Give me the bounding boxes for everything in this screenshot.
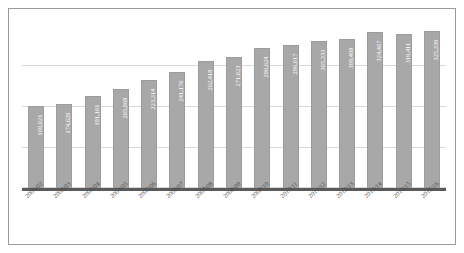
bar-slot: 296,617	[276, 24, 304, 188]
bar-slot: 169,021	[22, 24, 50, 188]
category-slot: 2009/10	[248, 192, 276, 238]
bar-slot: 325,339	[418, 24, 446, 188]
bar-slot: 308,408	[333, 24, 361, 188]
bar-value-label: 324,467	[375, 40, 382, 61]
bar-slot: 174,629	[50, 24, 78, 188]
category-slot: 2014/15	[389, 192, 417, 238]
bar-value-label: 174,629	[64, 112, 71, 133]
category-slot: 2013/14	[361, 192, 389, 238]
bar-value-label: 319,411	[404, 43, 411, 64]
bar[interactable]: 290,624	[254, 48, 270, 188]
bar-value-label: 290,624	[262, 56, 269, 77]
x-axis-labels: 2001/022002/032003/042004/052005/062006/…	[22, 192, 446, 238]
category-slot: 2006/07	[163, 192, 191, 238]
bar-slot: 223,314	[135, 24, 163, 188]
category-slot: 2005/06	[135, 192, 163, 238]
bar-slot: 305,333	[305, 24, 333, 188]
bar-slot: 319,411	[389, 24, 417, 188]
bar[interactable]: 324,467	[367, 32, 383, 189]
bar[interactable]: 271,023	[226, 57, 242, 188]
bar[interactable]: 262,418	[198, 61, 214, 188]
bar-value-label: 262,418	[206, 70, 213, 91]
category-slot: 2012/13	[333, 192, 361, 238]
bar-value-label: 205,968	[121, 97, 128, 118]
bar[interactable]: 223,314	[141, 80, 157, 188]
bar-slot: 241,176	[163, 24, 191, 188]
bar-value-label: 223,314	[149, 89, 156, 110]
category-slot: 2002/03	[50, 192, 78, 238]
bar-value-label: 169,021	[36, 115, 43, 136]
bar-value-label: 325,339	[432, 40, 439, 61]
bar-value-label: 296,617	[291, 54, 298, 75]
bar-value-label: 308,408	[347, 48, 354, 69]
chart-figure: 169,021174,629191,161205,968223,314241,1…	[0, 0, 464, 253]
category-slot: 2003/04	[79, 192, 107, 238]
category-slot: 2008/09	[220, 192, 248, 238]
bar[interactable]: 191,161	[85, 96, 101, 188]
bar-slot: 290,624	[248, 24, 276, 188]
bar[interactable]: 296,617	[283, 45, 299, 188]
bar-slot: 271,023	[220, 24, 248, 188]
category-slot: 2010/11	[276, 192, 304, 238]
bar-value-label: 191,161	[93, 104, 100, 125]
bar-slot: 262,418	[192, 24, 220, 188]
bar-slot: 324,467	[361, 24, 389, 188]
bar-value-label: 271,023	[234, 66, 241, 87]
bar[interactable]: 169,021	[28, 106, 44, 188]
bar-series: 169,021174,629191,161205,968223,314241,1…	[22, 24, 446, 188]
plot-area: 169,021174,629191,161205,968223,314241,1…	[22, 24, 446, 188]
bar[interactable]: 241,176	[169, 72, 185, 188]
bar-slot: 191,161	[79, 24, 107, 188]
bar-value-label: 241,176	[177, 80, 184, 101]
bar[interactable]: 205,968	[113, 89, 129, 188]
bar[interactable]: 305,333	[311, 41, 327, 188]
bar[interactable]: 308,408	[339, 39, 355, 188]
category-slot: 2011/12	[305, 192, 333, 238]
bar-slot: 205,968	[107, 24, 135, 188]
bar-value-label: 305,333	[319, 49, 326, 70]
category-slot: 2004/05	[107, 192, 135, 238]
bar[interactable]: 319,411	[396, 34, 412, 188]
category-slot: 2015/16	[418, 192, 446, 238]
bar[interactable]: 325,339	[424, 31, 440, 188]
category-slot: 2007/08	[192, 192, 220, 238]
bar[interactable]: 174,629	[56, 104, 72, 188]
category-slot: 2001/02	[22, 192, 50, 238]
